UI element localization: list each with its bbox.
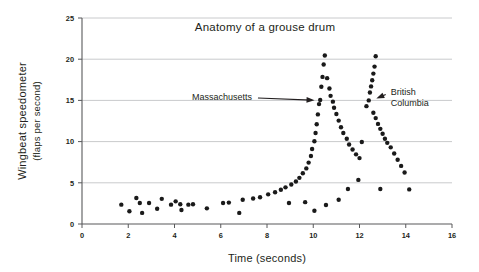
data-point <box>389 145 393 149</box>
data-point <box>309 154 313 158</box>
data-point <box>367 98 371 102</box>
x-tick-label: 12 <box>355 231 363 240</box>
annotation-massachusetts: Massachusetts <box>192 92 315 103</box>
data-point <box>119 202 123 206</box>
x-tick-label: 14 <box>402 231 411 240</box>
data-point <box>266 192 270 196</box>
data-point <box>350 147 354 151</box>
x-tick-label: 16 <box>448 231 456 240</box>
data-point <box>385 141 389 145</box>
annotation-label: Columbia <box>391 98 429 108</box>
data-point <box>336 197 340 201</box>
data-point <box>324 203 328 207</box>
data-point <box>360 140 364 144</box>
annotation-label: Massachusetts <box>192 92 253 102</box>
data-point <box>306 160 310 164</box>
data-point <box>258 195 262 199</box>
chart-container: 0510152025 0246810121416 MassachusettsBr… <box>0 0 479 272</box>
x-tick-label: 8 <box>265 231 269 240</box>
data-point <box>297 176 301 180</box>
data-point <box>169 202 173 206</box>
data-point <box>127 209 131 213</box>
annotation-british-columbia: BritishColumbia <box>376 87 428 108</box>
x-tick-label: 6 <box>219 231 223 240</box>
data-point <box>294 179 298 183</box>
data-point <box>304 166 308 170</box>
data-point <box>364 104 368 108</box>
data-point <box>147 201 151 205</box>
data-point <box>134 196 138 200</box>
data-point <box>303 200 307 204</box>
y-axis-title-line2: (flaps per second) <box>31 81 42 161</box>
x-tick-label: 10 <box>309 231 317 240</box>
data-point <box>315 122 319 126</box>
data-point <box>407 187 411 191</box>
data-point <box>287 201 291 205</box>
y-axis-title-line1: Wingbeat speedometer <box>16 62 28 180</box>
data-point <box>320 75 324 79</box>
data-point <box>283 185 287 189</box>
annotation-arrow-line <box>258 98 312 100</box>
data-point <box>356 178 360 182</box>
y-tick-label: 0 <box>70 220 74 229</box>
data-point <box>191 202 195 206</box>
data-point <box>383 137 387 141</box>
data-point <box>241 197 245 201</box>
data-point <box>186 202 190 206</box>
data-point <box>155 207 159 211</box>
data-point <box>345 137 349 141</box>
data-point <box>357 156 361 160</box>
data-series <box>119 53 327 215</box>
annotation-arrow-head <box>376 93 384 99</box>
data-point <box>354 152 358 156</box>
data-point <box>332 106 336 110</box>
x-tick-label: 2 <box>126 231 130 240</box>
data-point <box>347 142 351 146</box>
data-point <box>140 211 144 215</box>
data-point <box>178 202 182 206</box>
annotation-label: British <box>391 87 416 97</box>
data-point <box>341 131 345 135</box>
grouse-drum-scatter-chart: 0510152025 0246810121416 MassachusettsBr… <box>0 0 479 272</box>
data-point <box>227 200 231 204</box>
data-point <box>380 132 384 136</box>
data-point <box>372 64 376 68</box>
data-point <box>328 94 332 98</box>
x-axis-title: Time (seconds) <box>228 252 306 264</box>
data-point <box>160 197 164 201</box>
data-point <box>371 111 375 115</box>
data-series <box>371 111 411 192</box>
y-tick-label: 10 <box>66 137 74 146</box>
data-points-layer <box>119 53 411 215</box>
data-point <box>273 190 277 194</box>
data-point <box>301 171 305 175</box>
data-point <box>251 196 255 200</box>
data-point <box>279 188 283 192</box>
data-point <box>237 211 241 215</box>
data-point <box>323 53 327 57</box>
y-axis-ticks: 0510152025 <box>66 14 82 229</box>
data-point <box>312 209 316 213</box>
data-point <box>368 90 372 94</box>
page-title: Anatomy of a grouse drum <box>195 21 335 33</box>
data-point <box>402 170 406 174</box>
data-point <box>138 201 142 205</box>
data-point <box>334 112 338 116</box>
data-point <box>336 118 340 122</box>
data-point <box>319 85 323 89</box>
data-point <box>369 84 373 88</box>
data-point <box>317 102 321 106</box>
data-point <box>205 206 209 210</box>
x-tick-label: 4 <box>172 231 177 240</box>
data-point <box>370 78 374 82</box>
data-point <box>376 122 380 126</box>
data-point <box>173 199 177 203</box>
data-point <box>310 147 314 151</box>
data-point <box>395 158 399 162</box>
data-point <box>221 201 225 205</box>
x-axis-ticks: 0246810121416 <box>80 224 456 240</box>
data-point <box>318 98 322 102</box>
y-tick-label: 15 <box>66 96 74 105</box>
x-tick-label: 0 <box>80 231 84 240</box>
data-point <box>179 208 183 212</box>
